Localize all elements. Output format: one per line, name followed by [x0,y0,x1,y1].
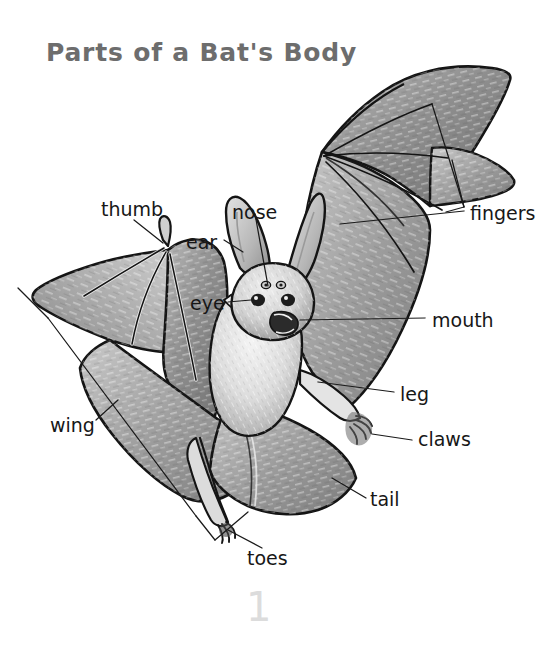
label-leg: leg [400,385,429,404]
leader-toes [228,530,262,548]
label-fingers: fingers [470,204,535,223]
label-toes: toes [247,549,288,568]
pencil-mark-artifact: 1 [246,584,271,630]
leader-claws [372,434,412,440]
right-wing [296,66,515,408]
label-thumb: thumb [101,200,163,219]
bat-head [232,263,314,340]
label-eye: eye [190,294,225,313]
label-wing: wing [50,416,95,435]
left-eye [251,294,265,306]
right-eye [281,294,295,306]
label-mouth: mouth [432,311,494,330]
label-nose: nose [232,203,277,222]
label-tail: tail [370,490,400,509]
label-ear: ear [186,233,217,252]
label-claws: claws [418,430,471,449]
bat-anatomy-page: Parts of a Bat's Body [0,0,555,652]
